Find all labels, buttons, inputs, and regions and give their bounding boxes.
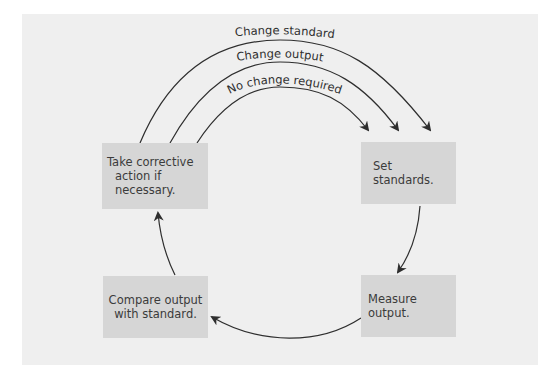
step-label: Set standards.	[373, 159, 456, 187]
arrows-layer: Change standard Change output No change …	[0, 0, 552, 373]
step-label-line: Compare output	[109, 293, 203, 307]
step-set-standards: Set standards.	[361, 142, 456, 204]
step-label-line: with standard.	[109, 307, 203, 321]
arrow-measure-to-compare	[212, 317, 361, 338]
step-label-line: Take corrective	[107, 155, 208, 169]
step-take-corrective-action: Take corrective action if necessary.	[102, 143, 208, 209]
step-label-line: action if necessary.	[107, 169, 208, 197]
label-change-standard: Change standard	[234, 23, 335, 41]
arrow-compare-to-corrective	[158, 213, 175, 275]
arc-no-change-required	[197, 87, 368, 143]
step-compare-output: Compare output with standard.	[103, 276, 208, 338]
arrow-set-to-measure	[398, 206, 420, 272]
label-no-change-required: No change required	[225, 72, 344, 96]
step-measure-output: Measure output.	[361, 275, 456, 337]
step-label: Measure output.	[368, 292, 456, 320]
